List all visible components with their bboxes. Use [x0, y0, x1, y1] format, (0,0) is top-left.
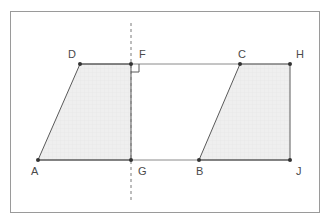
geometry-canvas: A D F G B C H J [0, 0, 330, 224]
vertex-label-f: F [139, 48, 146, 60]
geometry-figure: A D F G B C H J [0, 0, 330, 224]
vertex-point-h [288, 62, 292, 66]
vertex-point-j [288, 158, 292, 162]
vertex-label-a: A [31, 165, 39, 177]
vertex-label-c: C [238, 48, 246, 60]
vertex-point-f [129, 62, 133, 66]
vertex-label-j: J [296, 165, 302, 177]
vertex-label-d: D [68, 48, 76, 60]
vertex-label-b: B [196, 165, 203, 177]
vertex-label-h: H [296, 48, 304, 60]
vertex-point-g [129, 158, 133, 162]
vertex-point-c [238, 62, 242, 66]
vertex-point-b [197, 158, 201, 162]
vertex-point-a [36, 158, 40, 162]
vertex-point-d [78, 62, 82, 66]
vertex-label-g: G [138, 165, 147, 177]
